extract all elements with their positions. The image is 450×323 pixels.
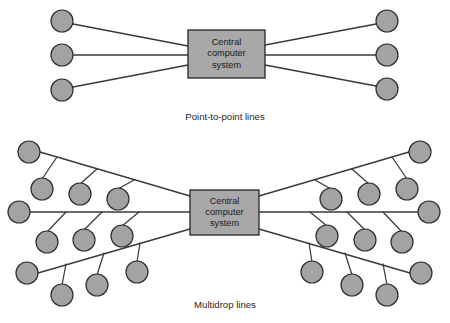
point-to-point-line [265, 24, 376, 45]
point-to-point-line [73, 24, 188, 46]
terminal-node[interactable] [51, 44, 73, 66]
multidrop-drop-line [42, 157, 57, 179]
drop-node[interactable] [354, 229, 376, 251]
caption-multidrop: Multidrop lines [194, 299, 256, 310]
diagram-canvas: Central computer system Point-to-point l… [0, 0, 450, 323]
drop-node[interactable] [341, 274, 363, 296]
caption-point-to-point: Point-to-point lines [185, 111, 265, 122]
panel-multidrop: Central computer system Multidrop lines [8, 141, 440, 310]
drop-node[interactable] [396, 178, 418, 200]
multidrop-drop-line [137, 243, 140, 262]
terminal-node[interactable] [376, 78, 398, 100]
multidrop-drop-line [62, 264, 66, 285]
terminal-node[interactable] [18, 141, 40, 163]
terminal-node[interactable] [51, 10, 73, 32]
drop-node[interactable] [51, 284, 73, 306]
multidrop-drop-line [383, 212, 402, 232]
terminal-node[interactable] [418, 201, 440, 223]
multidrop-drop-line [315, 180, 331, 189]
panel-point-to-point: Central computer system Point-to-point l… [51, 10, 398, 122]
terminal-node[interactable] [410, 262, 432, 284]
terminal-node[interactable] [16, 262, 38, 284]
drop-node[interactable] [69, 183, 91, 205]
drop-node[interactable] [126, 261, 148, 283]
multidrop-drop-line [309, 243, 312, 262]
multidrop-drop-line [47, 212, 66, 232]
drop-node[interactable] [111, 225, 133, 247]
drop-node[interactable] [316, 225, 338, 247]
terminal-node[interactable] [376, 44, 398, 66]
multidrop-drop-line [84, 212, 102, 230]
point-to-point-line [265, 65, 376, 86]
drop-node[interactable] [31, 178, 53, 200]
drop-node[interactable] [73, 229, 95, 251]
multidrop-drop-line [122, 212, 139, 226]
network-topology-diagram: Central computer system Point-to-point l… [0, 0, 450, 323]
terminal-node[interactable] [51, 79, 73, 101]
hub-label-line-3: system [212, 60, 241, 70]
hub-label-line-1: Central [210, 196, 240, 206]
multidrop-drop-line [310, 212, 327, 226]
central-computer-box-top: Central computer system [188, 30, 265, 78]
drop-node[interactable] [36, 231, 58, 253]
terminal-node[interactable] [8, 201, 30, 223]
central-computer-box-bottom: Central computer system [190, 190, 259, 235]
multidrop-drop-line [383, 264, 387, 285]
multidrop-drop-line [118, 180, 134, 189]
multidrop-drop-line [347, 212, 365, 230]
drop-node[interactable] [358, 183, 380, 205]
hub-label-line-3: system [210, 218, 239, 228]
drop-node[interactable] [107, 188, 129, 210]
hub-label-line-2: computer [205, 207, 243, 217]
terminal-node[interactable] [409, 141, 431, 163]
drop-node[interactable] [320, 188, 342, 210]
multidrop-drop-line [392, 157, 407, 179]
hub-label-line-2: computer [207, 48, 245, 58]
drop-node[interactable] [376, 284, 398, 306]
hub-label-line-1: Central [212, 37, 242, 47]
terminal-node[interactable] [376, 10, 398, 32]
drop-node[interactable] [391, 231, 413, 253]
point-to-point-line [73, 65, 188, 87]
drop-node[interactable] [301, 261, 323, 283]
multidrop-drop-line [352, 169, 369, 184]
multidrop-drop-line [80, 169, 97, 184]
drop-node[interactable] [86, 274, 108, 296]
